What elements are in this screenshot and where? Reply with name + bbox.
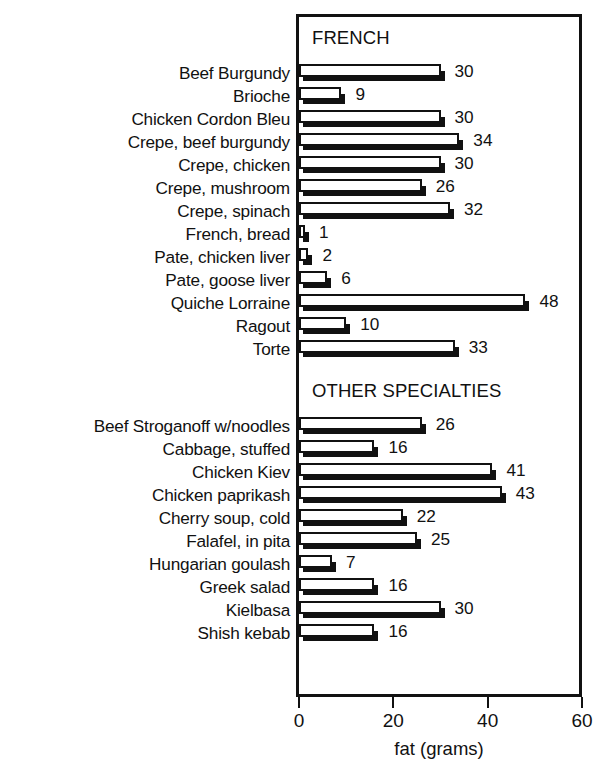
bar-row: Cherry soup, cold22: [0, 508, 608, 531]
bar: [299, 248, 314, 269]
bar-body: [299, 202, 450, 215]
bar-value-label: 16: [388, 621, 407, 642]
bar-row: Pate, chicken liver2: [0, 247, 608, 270]
bar: [299, 202, 456, 223]
bar: [299, 179, 428, 200]
x-axis-title: fat (grams): [296, 738, 582, 760]
bar-category-label: Quiche Lorraine: [0, 293, 290, 314]
bar-category-label: Torte: [0, 339, 290, 360]
bar: [299, 133, 465, 154]
bar-row: Brioche9: [0, 86, 608, 109]
bar-value-label: 6: [341, 268, 351, 289]
bar-value-label: 1: [319, 222, 329, 243]
x-tick-label: 60: [560, 709, 604, 732]
bar-body: [299, 248, 308, 261]
bar: [299, 624, 380, 645]
bar-category-label: Chicken Kiev: [0, 462, 290, 483]
bar: [299, 317, 352, 338]
bar-category-label: Beef Stroganoff w/noodles: [0, 416, 290, 437]
bar-category-label: Pate, goose liver: [0, 270, 290, 291]
bar-value-label: 34: [473, 130, 492, 151]
bar-category-label: Beef Burgundy: [0, 63, 290, 84]
bar: [299, 340, 461, 361]
x-tick: [298, 697, 300, 708]
bar-category-label: Cabbage, stuffed: [0, 439, 290, 460]
bar: [299, 578, 380, 599]
bar-body: [299, 225, 305, 238]
bar-body: [299, 532, 417, 545]
bar-body: [299, 87, 341, 100]
x-tick-label: 40: [466, 709, 510, 732]
bar: [299, 463, 498, 484]
bar-value-label: 43: [516, 483, 535, 504]
bar-body: [299, 624, 374, 637]
bar-body: [299, 179, 422, 192]
bar-row: Chicken paprikash43: [0, 485, 608, 508]
bar-body: [299, 294, 525, 307]
bar-row: French, bread1: [0, 224, 608, 247]
bar-body: [299, 486, 502, 499]
x-tick-label: 0: [277, 709, 321, 732]
bar-row: Greek salad16: [0, 577, 608, 600]
x-tick: [392, 697, 394, 708]
bar: [299, 486, 508, 507]
bar-category-label: Chicken paprikash: [0, 485, 290, 506]
bar-row: Beef Stroganoff w/noodles26: [0, 416, 608, 439]
bar-value-label: 30: [455, 598, 474, 619]
bar: [299, 509, 409, 530]
bar-value-label: 16: [388, 437, 407, 458]
bar-body: [299, 133, 459, 146]
bar-category-label: Kielbasa: [0, 600, 290, 621]
bar-value-label: 33: [469, 337, 488, 358]
bar-category-label: Crepe, beef burgundy: [0, 132, 290, 153]
bar-value-label: 26: [436, 414, 455, 435]
bar-row: Crepe, mushroom26: [0, 178, 608, 201]
bar-row: Beef Burgundy30: [0, 63, 608, 86]
bar-body: [299, 340, 455, 353]
bar-value-label: 30: [455, 61, 474, 82]
bar: [299, 110, 447, 131]
bar-value-label: 48: [539, 291, 558, 312]
bar-category-label: Greek salad: [0, 577, 290, 598]
bar-body: [299, 271, 327, 284]
x-tick: [581, 697, 583, 708]
bar-body: [299, 555, 332, 568]
bar-value-label: 26: [436, 176, 455, 197]
bar-row: Chicken Kiev41: [0, 462, 608, 485]
bar-row: Hungarian goulash7: [0, 554, 608, 577]
bar-row: Falafel, in pita25: [0, 531, 608, 554]
bar-category-label: Pate, chicken liver: [0, 247, 290, 268]
bar-row: Crepe, chicken30: [0, 155, 608, 178]
bar-body: [299, 317, 346, 330]
bar-row: Crepe, beef burgundy34: [0, 132, 608, 155]
bar-row: Cabbage, stuffed16: [0, 439, 608, 462]
bar-row: Chicken Cordon Bleu30: [0, 109, 608, 132]
x-tick-label: 20: [371, 709, 415, 732]
bar-row: Ragout10: [0, 316, 608, 339]
bar: [299, 417, 428, 438]
bar-body: [299, 417, 422, 430]
bar-value-label: 2: [322, 245, 332, 266]
bar: [299, 156, 447, 177]
bar: [299, 87, 347, 108]
bar-category-label: Cherry soup, cold: [0, 508, 290, 529]
bar-row: Kielbasa30: [0, 600, 608, 623]
bar: [299, 532, 423, 553]
bar: [299, 440, 380, 461]
bar-category-label: Brioche: [0, 86, 290, 107]
bar-row: Crepe, spinach32: [0, 201, 608, 224]
bar-value-label: 9: [355, 84, 365, 105]
bar-value-label: 32: [464, 199, 483, 220]
bar-row: Pate, goose liver6: [0, 270, 608, 293]
bar-category-label: Crepe, spinach: [0, 201, 290, 222]
bar-category-label: Crepe, mushroom: [0, 178, 290, 199]
bar-body: [299, 440, 374, 453]
bar-category-label: Ragout: [0, 316, 290, 337]
bar-value-label: 10: [360, 314, 379, 335]
bar-body: [299, 110, 441, 123]
bar-category-label: Crepe, chicken: [0, 155, 290, 176]
bar: [299, 601, 447, 622]
bar-value-label: 30: [455, 153, 474, 174]
bar-body: [299, 509, 403, 522]
bar-value-label: 16: [388, 575, 407, 596]
